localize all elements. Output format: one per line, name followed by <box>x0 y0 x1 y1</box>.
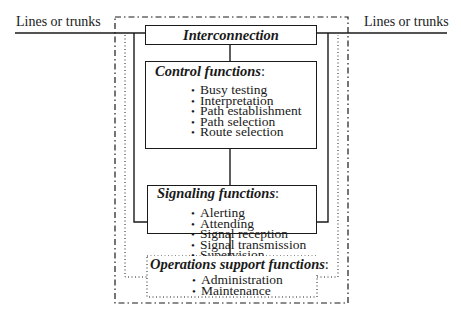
control-functions-title: Control functions: <box>155 63 265 80</box>
interconnection-title: Interconnection <box>146 27 316 44</box>
control-functions-list: Busy testing Interpretation Path establi… <box>191 85 302 138</box>
control-functions-box: Control functions: Busy testing Interpre… <box>145 61 317 149</box>
signaling-functions-list: Alerting Attending Signal reception Sign… <box>191 208 306 261</box>
signaling-title-text: Signaling functions <box>157 185 275 201</box>
control-title-text: Control functions <box>155 63 261 79</box>
operations-title-colon: : <box>325 256 329 272</box>
operations-support-title: Operations support functions: <box>150 256 329 273</box>
interconnection-box: Interconnection <box>145 25 317 45</box>
left-lines-or-trunks-label: Lines or trunks <box>16 14 101 30</box>
control-title-colon: : <box>261 63 265 79</box>
operations-title-text: Operations support functions <box>150 256 325 272</box>
list-item: Route selection <box>191 127 302 138</box>
list-item: Maintenance <box>192 286 283 297</box>
operations-support-list: Administration Maintenance <box>192 275 283 296</box>
right-signaling-link <box>317 33 328 222</box>
signaling-functions-box: Signaling functions: Alerting Attending … <box>147 185 317 234</box>
signaling-functions-title: Signaling functions: <box>157 185 279 202</box>
signaling-title-colon: : <box>275 185 279 201</box>
right-lines-or-trunks-label: Lines or trunks <box>364 14 449 30</box>
operations-support-box: Operations support functions: Administra… <box>148 256 316 296</box>
